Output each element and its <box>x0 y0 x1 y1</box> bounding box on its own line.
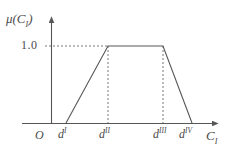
x-tick-label-d2: dII <box>99 128 110 140</box>
x-tick-label-d2-superscript: II <box>105 126 110 135</box>
x-axis-label: CI <box>206 129 217 142</box>
x-tick-label-d3-superscript: III <box>159 126 166 135</box>
x-tick-label-d4: dIV <box>179 128 192 140</box>
origin-label: O <box>35 129 44 141</box>
figure-container: μ(CI) 1.0 O dI dII dIII dIV CI <box>0 0 233 156</box>
x-tick-label-d3: dIII <box>153 128 166 140</box>
y-axis-label: μ(CI) <box>6 12 33 25</box>
x-axis-label-subscript: I <box>215 137 218 146</box>
x-tick-label-d1: dI <box>58 128 66 140</box>
trapezoid-membership-curve <box>66 46 192 123</box>
x-tick-label-d4-superscript: IV <box>185 126 192 135</box>
x-tick-label-d1-superscript: I <box>64 126 66 135</box>
y-tick-label-one: 1.0 <box>21 39 38 51</box>
